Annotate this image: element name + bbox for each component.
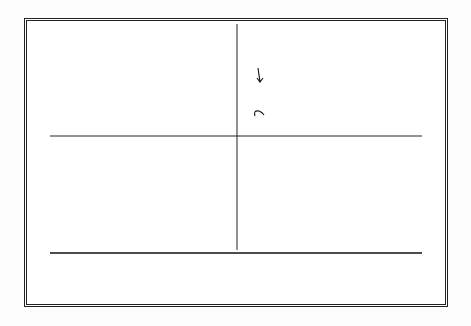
plot-canvas[interactable] [0,0,471,326]
arrow-annotation-4 [257,68,263,82]
command-menu [51,258,68,276]
arrow-annotation-5 [255,111,265,116]
status-line [51,286,415,326]
